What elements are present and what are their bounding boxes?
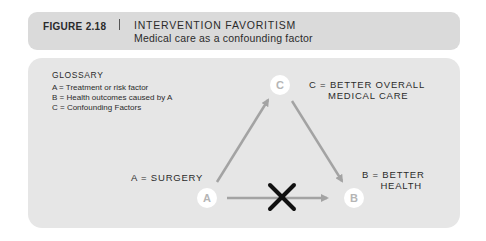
node-b-caption-line1: B = BETTER — [362, 169, 422, 180]
node-c: C — [270, 75, 290, 95]
node-b-caption: B = BETTER HEALTH — [362, 169, 422, 191]
node-b: B — [344, 188, 364, 208]
node-a-caption: A = SURGERY — [131, 172, 203, 183]
arrow-a-to-c — [217, 100, 268, 182]
causal-diagram: C A B — [0, 0, 486, 241]
node-c-letter: C — [276, 79, 284, 91]
node-c-caption-line1: C = BETTER OVERALL — [309, 79, 425, 90]
node-a-letter: A — [203, 192, 211, 204]
arrow-c-to-b — [292, 101, 342, 181]
node-a: A — [197, 188, 217, 208]
node-b-letter: B — [350, 192, 358, 204]
node-c-caption: C = BETTER OVERALL MEDICAL CARE — [309, 79, 425, 101]
node-c-caption-line2: MEDICAL CARE — [309, 90, 425, 101]
node-b-caption-line2: HEALTH — [362, 180, 422, 191]
